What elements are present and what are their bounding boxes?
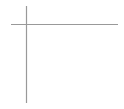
dot-grid-diagram xyxy=(0,0,124,109)
